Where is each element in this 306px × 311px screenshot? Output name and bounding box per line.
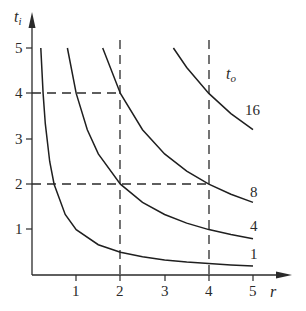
- curves: [41, 48, 253, 266]
- x-tick-label-2: 2: [116, 283, 124, 299]
- curve-label-16: 16: [245, 102, 261, 118]
- x-tick-label-5: 5: [249, 283, 257, 299]
- x-ticks: [76, 275, 253, 281]
- reference-lines: [32, 40, 209, 275]
- x-tick-label-4: 4: [205, 283, 213, 299]
- y-tick-label-5: 5: [15, 40, 23, 56]
- curve-label-1: 1: [250, 246, 258, 262]
- y-tick-label-3: 3: [15, 131, 23, 147]
- y-ticks: [26, 48, 32, 229]
- curve-label-8: 8: [250, 184, 258, 200]
- x-axis-label: r: [270, 283, 277, 300]
- legend-title: to: [226, 65, 236, 84]
- curve-to-1: [41, 48, 253, 266]
- y-axis-label: ti: [14, 8, 22, 27]
- x-tick-label-3: 3: [161, 283, 169, 299]
- curve-label-4: 4: [250, 218, 258, 234]
- x-tick-label-1: 1: [72, 283, 80, 299]
- y-tick-label-1: 1: [15, 221, 23, 237]
- y-tick-label-4: 4: [15, 85, 23, 101]
- y-tick-label-2: 2: [15, 176, 23, 192]
- y-axis-arrow-icon: [29, 12, 36, 28]
- x-axis-arrow-icon: [276, 272, 292, 279]
- chart: 1 2 3 4 5 1 2 3 4 5 r ti to 16 8 4 1: [0, 0, 306, 311]
- curve-to-16: [173, 48, 253, 130]
